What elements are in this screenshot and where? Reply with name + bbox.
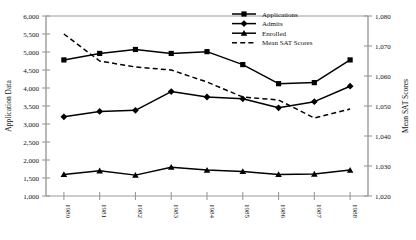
- left-axis-tick-label: 5,500: [23, 31, 39, 39]
- left-axis-tick-label: 2,500: [23, 139, 39, 147]
- series-applications: [61, 47, 352, 86]
- legend-label-2: Enrolled: [262, 30, 287, 38]
- data-point-marker: [312, 80, 317, 85]
- right-axis-tick-label: 1,080: [375, 13, 391, 21]
- data-point-marker: [276, 81, 281, 86]
- legend-label-3: Mean SAT Scores: [262, 39, 313, 47]
- right-axis-tick-label: 1,030: [375, 163, 391, 171]
- right-axis-tick-label: 1,070: [375, 43, 391, 51]
- data-point-marker: [348, 57, 353, 62]
- data-point-marker: [169, 51, 174, 56]
- data-point-marker: [61, 57, 66, 62]
- x-axis-tick-label: 1986: [279, 204, 287, 219]
- x-axis-tick-label: 1988: [351, 204, 359, 219]
- legend-marker-0: [241, 11, 246, 16]
- data-point-marker: [96, 108, 103, 115]
- left-axis-tick-label: 4,500: [23, 67, 39, 75]
- series-enrolled: [61, 164, 354, 178]
- left-axis-tick-label: 4,000: [23, 85, 39, 93]
- right-axis-tick-label: 1,020: [375, 193, 391, 201]
- x-axis-tick-label: 1981: [100, 204, 108, 219]
- x-axis-tick-label: 1984: [208, 204, 216, 219]
- left-axis-tick-label: 3,500: [23, 103, 39, 111]
- series-admits: [60, 83, 353, 120]
- right-axis-tick-label: 1,060: [375, 73, 391, 81]
- x-axis-tick-label: 1985: [243, 204, 251, 219]
- data-point-marker: [204, 94, 211, 101]
- data-point-marker: [60, 113, 67, 120]
- left-axis-tick-label: 5,000: [23, 49, 39, 57]
- x-axis-tick-label: 1980: [64, 204, 72, 219]
- data-point-marker: [133, 47, 138, 52]
- right-axis-title: Mean SAT Scores: [401, 79, 410, 133]
- legend-label-0: Applications: [262, 11, 298, 19]
- data-point-marker: [275, 104, 282, 111]
- data-point-marker: [132, 107, 139, 114]
- chart-container: 1,0001,5002,0002,5003,0003,5004,0004,500…: [0, 0, 416, 240]
- legend-marker-1: [241, 20, 248, 27]
- data-point-marker: [311, 98, 318, 105]
- series-line: [64, 86, 350, 117]
- x-axis-tick-label: 1987: [315, 204, 323, 219]
- data-point-marker: [168, 88, 175, 95]
- data-point-marker: [240, 62, 245, 67]
- left-axis-title: Application Data: [4, 80, 13, 132]
- x-axis-tick-label: 1982: [136, 204, 144, 219]
- left-axis-tick-label: 1,500: [23, 175, 39, 183]
- right-axis-tick-label: 1,040: [375, 133, 391, 141]
- data-point-marker: [97, 51, 102, 56]
- x-axis-tick-label: 1983: [172, 204, 180, 219]
- series-line: [64, 49, 350, 83]
- data-point-marker: [347, 83, 354, 90]
- left-axis-tick-label: 6,000: [23, 13, 39, 21]
- line-chart: 1,0001,5002,0002,5003,0003,5004,0004,500…: [0, 0, 416, 240]
- left-axis-tick-label: 3,000: [23, 121, 39, 129]
- data-point-marker: [204, 49, 209, 54]
- left-axis-tick-label: 1,000: [23, 193, 39, 201]
- legend-label-1: Admits: [262, 20, 283, 28]
- left-axis-tick-label: 2,000: [23, 157, 39, 165]
- right-axis-tick-label: 1,050: [375, 103, 391, 111]
